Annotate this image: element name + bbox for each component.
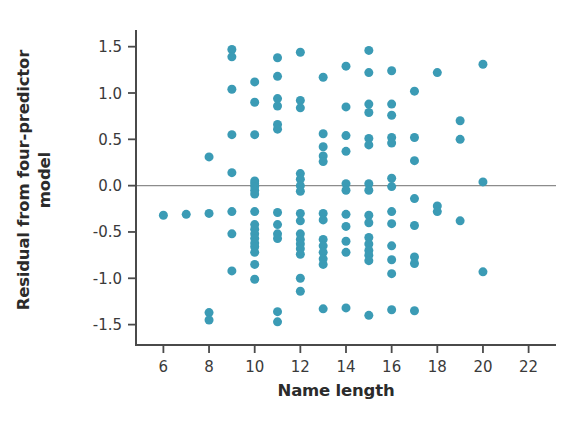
data-point xyxy=(205,315,214,324)
data-point xyxy=(387,269,396,278)
data-point xyxy=(205,209,214,218)
data-point xyxy=(250,248,259,257)
data-point xyxy=(250,77,259,86)
x-tick-label: 8 xyxy=(204,358,214,376)
data-point xyxy=(296,287,305,296)
x-tick-label: 14 xyxy=(336,358,355,376)
x-tick-label: 10 xyxy=(245,358,264,376)
data-point xyxy=(387,111,396,120)
axes-group: 1.51.00.50.0-0.5-1.0-1.5 681012141618202… xyxy=(93,30,556,376)
data-point xyxy=(342,62,351,71)
data-point xyxy=(250,207,259,216)
data-point xyxy=(296,216,305,225)
data-point xyxy=(456,116,465,125)
data-point xyxy=(227,229,236,238)
data-point xyxy=(387,182,396,191)
data-point xyxy=(296,274,305,283)
data-point xyxy=(342,222,351,231)
data-point xyxy=(273,53,282,62)
y-axis-title: Residual from four-predictor model xyxy=(6,0,62,360)
data-point xyxy=(410,259,419,268)
data-point xyxy=(319,157,328,166)
data-point xyxy=(296,187,305,196)
x-tick-label: 16 xyxy=(382,358,401,376)
data-point xyxy=(273,72,282,81)
y-tick-label: -0.5 xyxy=(93,223,122,241)
y-tick-label: -1.0 xyxy=(93,270,122,288)
data-point xyxy=(227,52,236,61)
data-point xyxy=(387,207,396,216)
x-axis-title: Name length xyxy=(136,381,536,400)
data-point xyxy=(364,108,373,117)
scatter-plot-canvas: 1.51.00.50.0-0.5-1.0-1.5 681012141618202… xyxy=(0,0,580,425)
data-point xyxy=(364,68,373,77)
y-tick-label: 0.0 xyxy=(98,177,122,195)
data-point xyxy=(364,256,373,265)
data-point xyxy=(342,102,351,111)
data-point xyxy=(410,133,419,142)
data-point xyxy=(319,304,328,313)
data-point xyxy=(478,177,487,186)
data-point xyxy=(273,220,282,229)
x-tick-label: 18 xyxy=(428,358,447,376)
y-axis-ticks: 1.51.00.50.0-0.5-1.0-1.5 xyxy=(93,38,136,334)
data-point xyxy=(273,125,282,134)
data-point xyxy=(273,208,282,217)
data-point xyxy=(364,218,373,227)
data-point xyxy=(456,216,465,225)
data-point xyxy=(410,194,419,203)
data-point xyxy=(227,168,236,177)
data-point xyxy=(387,174,396,183)
data-point xyxy=(296,48,305,57)
data-point xyxy=(250,130,259,139)
data-point xyxy=(410,156,419,165)
data-point xyxy=(387,255,396,264)
data-point xyxy=(205,152,214,161)
data-point xyxy=(387,241,396,250)
data-point xyxy=(342,237,351,246)
data-point xyxy=(159,211,168,220)
data-point xyxy=(387,100,396,109)
data-point xyxy=(227,207,236,216)
data-point xyxy=(273,101,282,110)
y-tick-label: 1.5 xyxy=(98,38,122,56)
x-tick-label: 6 xyxy=(159,358,169,376)
data-point xyxy=(342,131,351,140)
data-point xyxy=(410,221,419,230)
data-point xyxy=(364,100,373,109)
x-tick-label: 12 xyxy=(291,358,310,376)
data-point xyxy=(342,186,351,195)
data-point xyxy=(364,46,373,55)
data-point xyxy=(410,87,419,96)
data-point xyxy=(342,147,351,156)
data-point xyxy=(296,103,305,112)
data-point xyxy=(364,140,373,149)
y-tick-label: 1.0 xyxy=(98,85,122,103)
data-point xyxy=(296,250,305,259)
data-point xyxy=(342,210,351,219)
data-point xyxy=(319,73,328,82)
x-tick-label: 22 xyxy=(519,358,538,376)
data-point xyxy=(319,142,328,151)
x-tick-label: 20 xyxy=(473,358,492,376)
data-point xyxy=(227,85,236,94)
scatter-plot-figure: 1.51.00.50.0-0.5-1.0-1.5 681012141618202… xyxy=(0,0,580,425)
data-point xyxy=(342,248,351,257)
data-point xyxy=(273,307,282,316)
y-axis-title-line-2: model xyxy=(34,50,55,310)
data-point xyxy=(364,311,373,320)
data-point xyxy=(342,303,351,312)
y-tick-label: 0.5 xyxy=(98,131,122,149)
y-axis-title-line-1: Residual from four-predictor xyxy=(14,50,33,310)
data-point xyxy=(387,66,396,75)
data-point xyxy=(250,189,259,198)
data-point xyxy=(250,260,259,269)
y-tick-label: -1.5 xyxy=(93,316,122,334)
data-point xyxy=(456,135,465,144)
data-point xyxy=(227,130,236,139)
data-point xyxy=(250,98,259,107)
data-point xyxy=(319,215,328,224)
data-point xyxy=(319,129,328,138)
plot-area xyxy=(136,45,556,326)
data-point xyxy=(387,219,396,228)
